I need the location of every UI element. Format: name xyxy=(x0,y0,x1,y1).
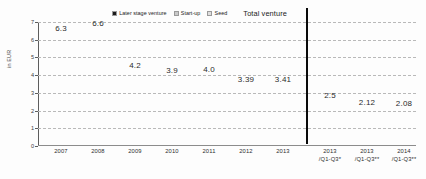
x-axis-label: 2013/Q1-Q3** xyxy=(347,148,387,163)
bar-total-label: 6.6 xyxy=(92,19,104,28)
x-axis-label-year: 2011 xyxy=(202,148,215,154)
x-axis-label: 2013 xyxy=(263,148,303,156)
x-axis-label-period: /Q1-Q3** xyxy=(347,156,387,164)
legend-entry-seed: Seed xyxy=(207,10,227,16)
x-axis-label-year: 2014 xyxy=(397,148,411,154)
bar-total-label: 3.9 xyxy=(166,66,178,75)
x-axis-label: 2010 xyxy=(152,148,192,156)
x-axis-label-year: 2013 xyxy=(323,148,337,154)
x-axis-label: 2011 xyxy=(189,148,229,156)
y-tick-label: 3 xyxy=(31,90,34,96)
y-tick-label: 6 xyxy=(31,37,34,43)
bar-total-label: 6.3 xyxy=(55,24,67,33)
bar-total-label: 3.41 xyxy=(275,75,291,84)
y-tick-label: 2 xyxy=(31,108,34,114)
bar-column[interactable]: 3.39 xyxy=(233,86,259,146)
y-tick-mark xyxy=(35,93,38,94)
y-axis-title: in EUR xyxy=(6,50,12,68)
legend-swatch-start-up xyxy=(174,11,179,16)
x-axis-label: 2014/Q1-Q3** xyxy=(384,148,424,163)
plot-area: 01234567 6.36.64.23.94.03.393.412.52.122… xyxy=(38,22,416,146)
x-axis-label: 2008 xyxy=(78,148,118,156)
x-axis-label-year: 2013 xyxy=(360,148,374,154)
y-tick-mark xyxy=(35,57,38,58)
legend-label-total-venture: Total venture xyxy=(243,9,287,18)
chart-legend: Later stage venture Start-up Seed Total … xyxy=(112,6,322,20)
bar-column[interactable]: 4.0 xyxy=(196,75,222,146)
bar-column[interactable]: 2.08 xyxy=(391,109,417,146)
y-tick-label: 1 xyxy=(31,125,34,131)
bar-total-label: 2.08 xyxy=(396,99,412,108)
bar-total-label: 4.0 xyxy=(203,65,215,74)
legend-label-start-up: Start-up xyxy=(181,10,201,16)
y-tick-mark xyxy=(35,40,38,41)
bar-column[interactable]: 4.2 xyxy=(122,72,148,146)
x-axis-label-year: 2013 xyxy=(276,148,290,154)
x-axis-label: 2007 xyxy=(41,148,81,156)
x-axis-label-period: /Q1-Q3* xyxy=(310,156,350,164)
x-axis-label: 2013/Q1-Q3* xyxy=(310,148,350,163)
legend-swatch-seed xyxy=(207,11,212,16)
y-tick-label: 5 xyxy=(31,54,34,60)
bar-column[interactable]: 3.9 xyxy=(159,77,185,146)
x-axis-label-year: 2007 xyxy=(54,148,68,154)
bar-column[interactable]: 6.6 xyxy=(85,29,111,146)
x-axis-labels: 20072008200920102011201220132013/Q1-Q3*2… xyxy=(38,148,416,176)
x-axis-label: 2009 xyxy=(115,148,155,156)
bar-total-label: 4.2 xyxy=(129,61,141,70)
bar-total-label: 2.5 xyxy=(324,91,336,100)
x-axis-label-year: 2009 xyxy=(128,148,142,154)
y-tick-label: 0 xyxy=(31,143,34,149)
x-axis-label-period: /Q1-Q3** xyxy=(384,156,424,164)
y-tick-mark xyxy=(35,75,38,76)
legend-swatch-later-stage-venture xyxy=(112,11,117,16)
legend-label-later-stage-venture: Later stage venture xyxy=(119,10,166,16)
bar-column[interactable]: 2.5 xyxy=(317,102,343,146)
x-axis-label-year: 2012 xyxy=(239,148,253,154)
bar-column[interactable]: 6.3 xyxy=(48,34,74,146)
y-tick-label: 7 xyxy=(31,19,34,25)
group-divider xyxy=(306,8,308,144)
bar-total-label: 3.39 xyxy=(238,75,254,84)
bar-column[interactable]: 2.12 xyxy=(354,108,380,146)
bar-total-label: 2.12 xyxy=(359,98,375,107)
x-axis-label-year: 2010 xyxy=(165,148,179,154)
y-tick-mark xyxy=(35,111,38,112)
x-axis-label-year: 2008 xyxy=(91,148,105,154)
legend-entry-start-up: Start-up xyxy=(174,10,201,16)
chart-root: Later stage venture Start-up Seed Total … xyxy=(0,0,426,179)
y-tick-label: 4 xyxy=(31,72,34,78)
legend-label-seed: Seed xyxy=(215,10,228,16)
bar-column[interactable]: 3.41 xyxy=(270,86,296,146)
legend-entry-later-stage-venture: Later stage venture xyxy=(112,10,167,16)
y-tick-mark xyxy=(35,146,38,147)
y-tick-mark xyxy=(35,128,38,129)
x-axis-label: 2012 xyxy=(226,148,266,156)
y-tick-mark xyxy=(35,22,38,23)
